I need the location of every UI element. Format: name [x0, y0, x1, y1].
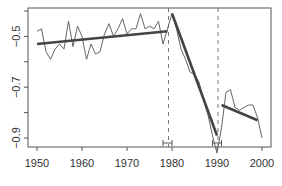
- x-tick-label: 1980: [160, 157, 184, 169]
- x-tick-label: 1990: [205, 157, 229, 169]
- fitted-segment-line: [172, 14, 217, 136]
- segmented-regression-chart: −0.5−0.7−0.9 195019601970198019902000: [0, 0, 282, 186]
- y-tick-label: −0.9: [10, 127, 22, 149]
- y-tick-label: −0.7: [10, 76, 22, 98]
- y-tick-label: −0.5: [10, 26, 22, 48]
- observed-series-line: [37, 14, 262, 154]
- x-tick-label: 1950: [25, 157, 49, 169]
- y-axis: −0.5−0.7−0.9: [10, 11, 28, 149]
- x-tick-label: 2000: [250, 157, 274, 169]
- x-tick-label: 1970: [115, 157, 139, 169]
- fitted-segment-line: [222, 105, 258, 120]
- data-series: [37, 14, 262, 154]
- x-tick-label: 1960: [70, 157, 94, 169]
- breakpoint-confidence-intervals: [163, 140, 222, 146]
- plot-frame: [28, 8, 271, 147]
- x-axis: 195019601970198019902000: [25, 147, 274, 169]
